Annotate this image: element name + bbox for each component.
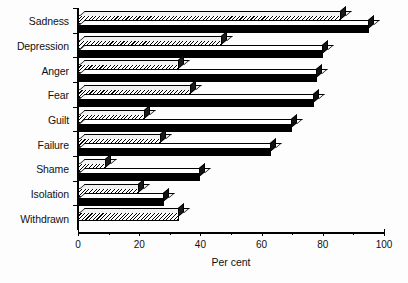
category-label: Isolation	[0, 189, 69, 200]
bar-end-cap	[105, 154, 111, 168]
bar-top-bevel	[79, 143, 282, 148]
bar-solid	[78, 49, 323, 58]
bar-end-cap	[163, 188, 169, 202]
bar-solid	[78, 73, 317, 82]
bar-group	[78, 205, 384, 230]
category-label: Withdrawn	[0, 214, 69, 225]
category-label: Shame	[0, 164, 69, 175]
bar-solid	[78, 123, 292, 132]
x-axis-tick-label: 80	[317, 239, 328, 250]
bar-end-cap	[291, 114, 297, 128]
x-axis-minor-tick	[170, 232, 171, 235]
x-axis-minor-tick	[353, 232, 354, 235]
x-axis-minor-tick	[231, 232, 232, 235]
x-axis-tick	[139, 232, 140, 236]
bar-top-bevel	[79, 168, 211, 173]
x-axis-end-cap	[78, 229, 79, 233]
bar-group	[78, 131, 384, 156]
bar-group	[78, 57, 384, 82]
bar-end-cap	[270, 138, 276, 152]
bar-top-bevel	[79, 60, 190, 65]
bar-top-bevel	[79, 119, 303, 124]
bar-end-cap	[178, 203, 184, 217]
x-axis-tick	[200, 232, 201, 236]
category-label: Guilt	[0, 115, 69, 126]
bar-end-cap	[340, 6, 346, 20]
bar-top-bevel	[79, 20, 380, 25]
x-axis-minor-tick	[109, 232, 110, 235]
bar-hatched	[78, 212, 179, 221]
bar-chart: SadnessDepressionAngerFearGuiltFailureSh…	[0, 0, 408, 283]
bar-group	[78, 82, 384, 107]
bar-top-bevel	[79, 94, 325, 99]
x-axis-minor-tick	[292, 232, 293, 235]
category-label: Sadness	[0, 16, 69, 27]
bar-top-bevel	[79, 193, 175, 198]
bar-end-cap	[221, 31, 227, 45]
x-axis-tick-label: 60	[256, 239, 267, 250]
x-axis-tick	[323, 232, 324, 236]
bar-group	[78, 107, 384, 132]
bar-end-cap	[138, 179, 144, 193]
bar-end-cap	[322, 40, 328, 54]
x-axis-tick-label: 20	[134, 239, 145, 250]
category-axis: SadnessDepressionAngerFearGuiltFailureSh…	[0, 8, 73, 230]
x-axis-tick	[262, 232, 263, 236]
bar-solid	[78, 147, 271, 156]
x-axis: 020406080100	[78, 232, 384, 234]
bar-end-cap	[316, 64, 322, 78]
x-axis-end-cap	[384, 229, 385, 233]
category-label: Depression	[0, 41, 69, 52]
bar-top-bevel	[79, 208, 190, 213]
bar-end-cap	[160, 129, 166, 143]
bar-end-cap	[313, 89, 319, 103]
bar-top-bevel	[79, 36, 233, 41]
bar-end-cap	[144, 105, 150, 119]
bar-top-bevel	[79, 45, 334, 50]
category-label: Anger	[0, 66, 69, 77]
bar-top-bevel	[79, 11, 352, 16]
bar-end-cap	[178, 55, 184, 69]
bar-solid	[78, 172, 200, 181]
x-axis-tick-label: 40	[195, 239, 206, 250]
category-label: Failure	[0, 140, 69, 151]
bar-solid	[78, 197, 164, 206]
x-axis-tick-label: 0	[75, 239, 81, 250]
x-axis-tick-label: 100	[376, 239, 393, 250]
bar-group	[78, 156, 384, 181]
bar-end-cap	[368, 15, 374, 29]
bar-top-bevel	[79, 85, 202, 90]
bar-top-bevel	[79, 134, 172, 139]
bar-end-cap	[190, 80, 196, 94]
category-label: Fear	[0, 90, 69, 101]
x-axis-title: Per cent	[78, 256, 384, 268]
bar-top-bevel	[79, 69, 328, 74]
plot-area	[78, 8, 384, 230]
bar-solid	[78, 24, 369, 33]
bar-group	[78, 8, 384, 33]
bar-group	[78, 33, 384, 58]
bar-end-cap	[199, 163, 205, 177]
bar-solid	[78, 98, 314, 107]
bar-group	[78, 181, 384, 206]
